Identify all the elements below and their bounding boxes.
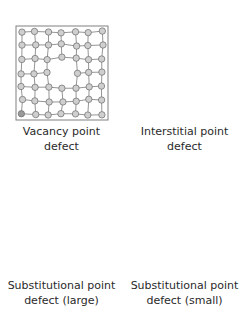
caption-line-2: defect: [0, 139, 123, 154]
caption-line-1: Interstitial point: [123, 124, 246, 139]
lattice-atom: [73, 43, 79, 49]
lattice-atom: [73, 55, 79, 61]
lattice-atom: [18, 111, 24, 117]
lattice-atom: [99, 112, 105, 118]
lattice-atom: [18, 83, 24, 89]
lattice-atom: [85, 112, 91, 118]
lattice-atom: [45, 29, 51, 35]
lattice-atom: [33, 42, 39, 48]
lattice-atom: [86, 96, 92, 102]
lattice-atom: [85, 56, 91, 62]
caption-line-1: Substitutional point: [123, 278, 246, 293]
lattice-atom: [32, 55, 38, 61]
panel-substitutional-large: Substitutional point defect (large): [0, 160, 123, 317]
lattice-atom: [99, 69, 105, 75]
lattice-atom: [73, 85, 79, 91]
panel-substitutional-small: Substitutional point defect (small): [123, 160, 246, 317]
lattice-atom: [32, 98, 38, 104]
lattice-atom: [73, 98, 79, 104]
caption-substitutional-small: Substitutional point defect (small): [123, 278, 246, 308]
lattice-atom: [19, 56, 25, 62]
lattice-atom: [33, 111, 39, 117]
lattice-atom: [98, 83, 104, 89]
lattice-atom: [99, 28, 105, 34]
lattice-atom: [19, 29, 25, 35]
lattice-atom: [85, 69, 91, 75]
lattice-atom: [18, 71, 24, 77]
caption-line-2: defect (large): [0, 293, 123, 308]
lattice-atom: [98, 56, 104, 62]
lattice-atom: [59, 85, 65, 91]
lattice-atom: [58, 30, 64, 36]
panel-vacancy: Vacancy point defect: [0, 0, 123, 160]
caption-line-1: Substitutional point: [0, 278, 123, 293]
caption-vacancy: Vacancy point defect: [0, 124, 123, 154]
lattice-atom: [60, 99, 66, 105]
lattice-atom: [31, 71, 37, 77]
lattice-atom: [85, 42, 91, 48]
caption-line-2: defect: [123, 139, 246, 154]
lattice-atom: [58, 41, 64, 47]
lattice-atom: [31, 28, 37, 34]
caption-line-1: Vacancy point: [0, 124, 123, 139]
lattice-atom: [46, 84, 52, 90]
lattice-atom: [85, 29, 91, 35]
lattice-atom: [44, 69, 50, 75]
lattice-atom: [100, 42, 106, 48]
lattice-atom: [45, 42, 51, 48]
lattice-atom: [44, 56, 50, 62]
lattice-atom: [72, 111, 78, 117]
lattice-atom: [45, 112, 51, 118]
lattice-atom: [86, 84, 92, 90]
caption-substitutional-large: Substitutional point defect (large): [0, 278, 123, 308]
lattice-atom: [46, 99, 52, 105]
caption-line-2: defect (small): [123, 293, 246, 308]
lattice-atom: [32, 84, 38, 90]
lattice-atom: [19, 42, 25, 48]
lattice-atom: [19, 96, 25, 102]
lattice-atom: [58, 110, 64, 116]
lattice-atom: [98, 97, 104, 103]
panel-interstitial: Interstitial point defect: [123, 0, 246, 160]
lattice-atom: [59, 54, 65, 60]
lattice-atom: [74, 70, 80, 76]
caption-interstitial: Interstitial point defect: [123, 124, 246, 154]
lattice-atom: [72, 29, 78, 35]
